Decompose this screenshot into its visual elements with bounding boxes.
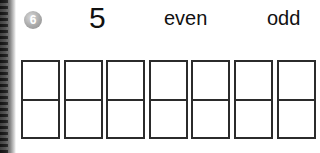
answer-cell-bottom[interactable] [193,101,228,138]
answer-cell-top[interactable] [193,62,228,101]
answer-cell-bottom[interactable] [151,101,186,138]
answer-cell-top[interactable] [236,62,271,101]
answer-cell-top[interactable] [66,62,101,101]
answer-cell-bottom[interactable] [108,101,143,138]
answer-box-4 [149,60,188,139]
answer-cell-bottom[interactable] [279,101,314,138]
even-label: even [164,8,207,28]
answer-box-1 [21,60,60,139]
answer-box-5 [191,60,230,139]
answer-cell-top[interactable] [151,62,186,101]
exercise-number-badge: 6 [24,11,42,29]
answer-box-3 [106,60,145,139]
answer-cell-top[interactable] [23,62,58,101]
book-spine-shadow [0,0,16,153]
answer-box-6 [234,60,273,139]
answer-cell-bottom[interactable] [66,101,101,138]
answer-cell-bottom[interactable] [236,101,271,138]
answer-cell-bottom[interactable] [23,101,58,138]
given-number: 5 [89,3,106,33]
exercise-number: 6 [30,13,37,27]
answer-boxes [21,60,316,139]
answer-cell-top[interactable] [279,62,314,101]
answer-box-2 [64,60,103,139]
answer-box-7 [277,60,316,139]
answer-cell-top[interactable] [108,62,143,101]
odd-label: odd [267,8,300,28]
